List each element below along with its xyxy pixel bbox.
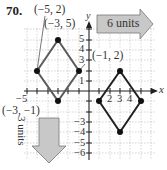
x-tick-label: 4 — [127, 93, 132, 104]
x-axis-arrow-icon — [151, 88, 158, 94]
x-tick-label: 3 — [117, 93, 122, 104]
label-point-b: (−3, 5) — [44, 17, 75, 29]
y-axis-arrow-icon — [86, 21, 92, 28]
x-tick-label: 2 — [107, 93, 112, 104]
y-tick-label: −4 — [74, 126, 85, 137]
down-arrow-label: 3 units — [16, 116, 28, 146]
y-axis-label: y — [86, 10, 90, 21]
label-point-d: (−3, −1) — [2, 104, 40, 116]
y-tick-label: 3 — [79, 54, 84, 65]
right-arrow-label: 6 units — [107, 16, 139, 31]
y-tick-label: 4 — [79, 43, 84, 54]
y-tick-label: 1 — [79, 75, 84, 86]
x-axis-label: x — [159, 83, 164, 95]
label-point-c: (−1, 2) — [92, 49, 123, 61]
x-tick-label: −5 — [16, 93, 27, 104]
y-tick-label: −6 — [74, 147, 85, 158]
label-point-a: (−5, 2) — [34, 3, 65, 15]
